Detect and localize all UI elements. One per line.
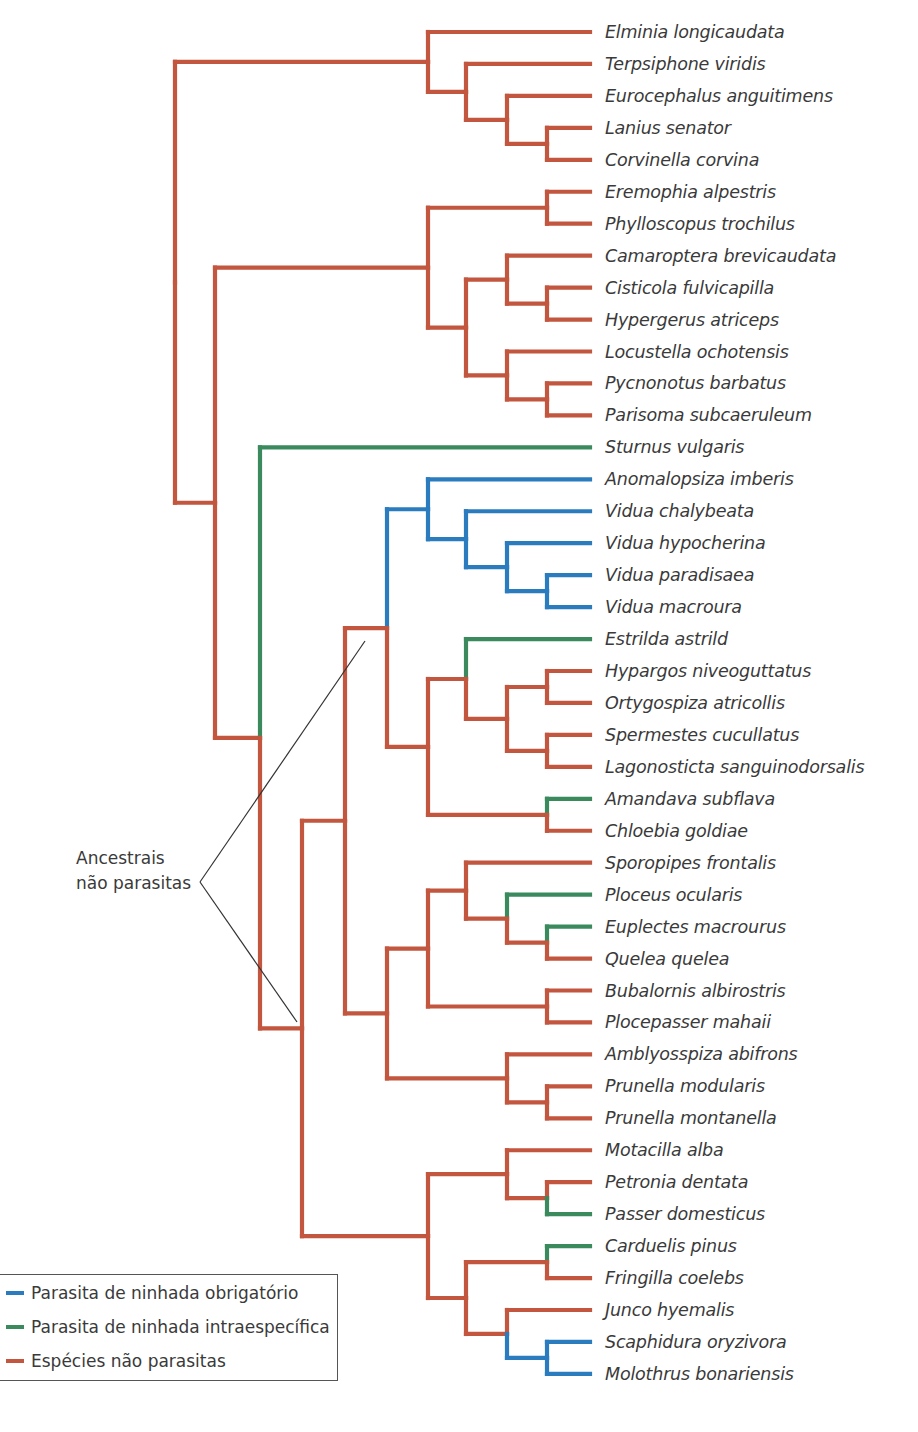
species-label: Lagonosticta sanguinodorsalis xyxy=(605,757,864,777)
species-label: Hypergerus atriceps xyxy=(605,310,779,330)
species-label: Prunella montanella xyxy=(605,1108,777,1128)
legend-item-obligate: Parasita de ninhada obrigatório xyxy=(6,1283,298,1303)
species-label: Bubalornis albirostris xyxy=(605,981,786,1001)
annotation-line-2: não parasitas xyxy=(76,871,191,896)
species-label: Eremophia alpestris xyxy=(605,182,776,202)
legend-item-nonparasite: Espécies não parasitas xyxy=(6,1351,226,1371)
species-label: Pycnonotus barbatus xyxy=(605,373,786,393)
ancestor-pointer-lines xyxy=(200,641,365,1022)
species-label: Chloebia goldiae xyxy=(605,821,748,841)
species-label: Ploceus ocularis xyxy=(605,885,742,905)
species-label: Spermestes cucullatus xyxy=(605,725,799,745)
pointer-line-upper xyxy=(200,641,365,882)
nonparasite-swatch-icon xyxy=(6,1359,24,1363)
species-label: Carduelis pinus xyxy=(605,1236,737,1256)
species-label: Prunella modularis xyxy=(605,1076,765,1096)
pointer-line-lower xyxy=(200,882,297,1022)
species-label: Ortygospiza atricollis xyxy=(605,693,785,713)
species-label: Vidua chalybeata xyxy=(605,501,754,521)
species-label: Petronia dentata xyxy=(605,1172,748,1192)
species-label: Fringilla coelebs xyxy=(605,1268,744,1288)
species-label: Scaphidura oryzivora xyxy=(605,1332,787,1352)
tree-branches xyxy=(175,32,590,1374)
species-label: Eurocephalus anguitimens xyxy=(605,86,833,106)
species-label: Passer domesticus xyxy=(605,1204,765,1224)
species-label: Elminia longicaudata xyxy=(605,22,785,42)
species-label: Camaroptera brevicaudata xyxy=(605,246,836,266)
annotation-ancestors: Ancestrais não parasitas xyxy=(76,846,191,896)
species-label: Vidua macroura xyxy=(605,597,742,617)
species-label: Molothrus bonariensis xyxy=(605,1364,794,1384)
legend-label: Parasita de ninhada obrigatório xyxy=(31,1283,298,1303)
species-label: Phylloscopus trochilus xyxy=(605,214,795,234)
species-label: Anomalopsiza imberis xyxy=(605,469,794,489)
species-label: Vidua hypocherina xyxy=(605,533,766,553)
legend: Parasita de ninhada obrigatório Parasita… xyxy=(0,1274,338,1381)
species-label: Estrilda astrild xyxy=(605,629,728,649)
species-label: Locustella ochotensis xyxy=(605,342,789,362)
species-label: Amandava subflava xyxy=(605,789,775,809)
legend-label: Espécies não parasitas xyxy=(31,1351,226,1371)
obligate-swatch-icon xyxy=(6,1291,24,1295)
species-label: Cisticola fulvicapilla xyxy=(605,278,774,298)
species-label: Lanius senator xyxy=(605,118,731,138)
species-label: Quelea quelea xyxy=(605,949,729,969)
species-label: Amblyosspiza abifrons xyxy=(605,1044,798,1064)
intraspecific-swatch-icon xyxy=(6,1325,24,1329)
species-label: Sturnus vulgaris xyxy=(605,437,744,457)
species-label: Junco hyemalis xyxy=(605,1300,734,1320)
species-label: Motacilla alba xyxy=(605,1140,724,1160)
species-label: Euplectes macrourus xyxy=(605,917,786,937)
species-label: Terpsiphone viridis xyxy=(605,54,765,74)
species-label: Vidua paradisaea xyxy=(605,565,754,585)
species-label: Parisoma subcaeruleum xyxy=(605,405,812,425)
species-label: Sporopipes frontalis xyxy=(605,853,776,873)
legend-item-intraspecific: Parasita de ninhada intraespecífica xyxy=(6,1317,330,1337)
species-label: Plocepasser mahaii xyxy=(605,1012,771,1032)
legend-label: Parasita de ninhada intraespecífica xyxy=(31,1317,330,1337)
species-label: Hypargos niveoguttatus xyxy=(605,661,811,681)
species-label: Corvinella corvina xyxy=(605,150,759,170)
annotation-line-1: Ancestrais xyxy=(76,846,191,871)
